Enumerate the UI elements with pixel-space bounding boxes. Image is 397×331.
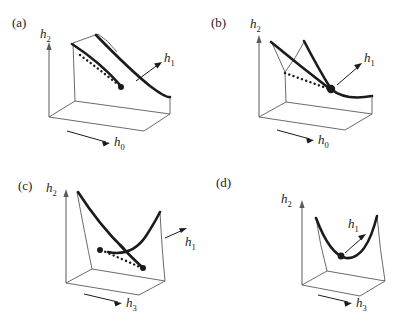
panel-b-junction-dot xyxy=(327,85,335,93)
panel-b-depth-axis-arrow xyxy=(337,66,359,85)
panel-a-depth-axis-label: h1 xyxy=(164,50,175,68)
panel-d-depth-axis-label: h1 xyxy=(348,216,359,234)
panel-a-back-left-edge xyxy=(73,43,75,101)
panel-a-base-parallelogram xyxy=(49,101,170,131)
panel-b-vertical-axis-label: h2 xyxy=(250,16,261,34)
panel-d-right-curved-edge xyxy=(377,216,385,281)
panel-b-depth-axis-label: h1 xyxy=(364,50,375,68)
panel-d-marked-point-dot xyxy=(338,253,345,260)
panel-c-label: (c) xyxy=(18,178,32,193)
panel-d-depth-axis-arrowhead xyxy=(358,234,366,241)
panel-a-horizontal-axis-arrow xyxy=(67,131,106,142)
panel-d-horizontal-axis-arrowhead xyxy=(344,302,352,307)
panel-c-vertical-axis-arrowhead xyxy=(63,189,68,197)
panel-a-vertical-axis-label: h2 xyxy=(40,26,51,44)
panel-a: (a) h2 xyxy=(12,15,175,152)
panel-d-horizontal-axis-label: h3 xyxy=(356,295,367,313)
four-panel-3d-diagram: (a) h2 xyxy=(0,0,397,331)
panel-a-thick-fold-curve-upper xyxy=(72,44,121,86)
panel-d: (d) h2 h1 xyxy=(216,175,385,313)
panel-c-depth-axis-label: h1 xyxy=(185,234,196,252)
panel-c: (c) h2 xyxy=(18,178,196,313)
panel-d-vertical-axis-arrowhead xyxy=(299,200,304,208)
panel-a-dotted-curve xyxy=(80,55,120,86)
panel-b-vertical-axis-arrowhead xyxy=(256,35,261,43)
panel-c-endpoint-dot-right xyxy=(140,265,146,271)
panel-c-horizontal-axis-label: h3 xyxy=(126,295,137,313)
panel-a-tent-line-right xyxy=(98,34,117,52)
panel-d-base-parallelogram xyxy=(302,271,385,296)
panel-a-depth-axis-arrowhead xyxy=(154,62,162,69)
panel-d-left-curved-edge xyxy=(316,218,327,271)
panel-c-thick-descending-curve xyxy=(78,192,124,249)
panel-d-horizontal-axis-arrow xyxy=(318,295,348,302)
panel-a-depth-axis-arrow xyxy=(136,64,159,81)
panel-b: (b) h2 xyxy=(211,15,375,150)
panel-b-thick-fold-curve-main xyxy=(304,41,372,97)
panel-b-horizontal-axis-label: h0 xyxy=(318,132,329,150)
panel-d-vertical-axis-label: h2 xyxy=(281,191,292,209)
panel-c-horizontal-axis-arrowhead xyxy=(114,301,122,306)
panel-c-vertical-axis-label: h2 xyxy=(46,180,57,198)
panel-b-horizontal-axis-arrowhead xyxy=(306,138,314,143)
panel-b-horizontal-axis-arrow xyxy=(277,130,310,139)
panel-c-endpoint-dot-left xyxy=(97,247,103,253)
panel-b-back-left-edge xyxy=(285,72,286,102)
panel-a-tent-line-left xyxy=(73,34,98,43)
panel-c-thick-rising-curve xyxy=(108,212,160,253)
panel-c-right-curved-edge xyxy=(160,212,165,281)
panel-c-horizontal-axis-arrow xyxy=(84,294,118,302)
panel-a-endpoint-dot xyxy=(118,84,124,90)
panel-a-label: (a) xyxy=(12,15,26,30)
panel-b-label: (b) xyxy=(211,15,226,30)
panel-d-depth-axis-arrow xyxy=(345,237,363,253)
figure-container: (a) h2 xyxy=(0,0,397,331)
panel-a-horizontal-axis-label: h0 xyxy=(114,134,125,152)
panel-d-label: (d) xyxy=(216,175,231,190)
panel-b-base-parallelogram xyxy=(259,102,372,130)
panel-c-base-parallelogram xyxy=(66,269,165,295)
panel-c-depth-axis-arrowhead xyxy=(179,228,187,233)
